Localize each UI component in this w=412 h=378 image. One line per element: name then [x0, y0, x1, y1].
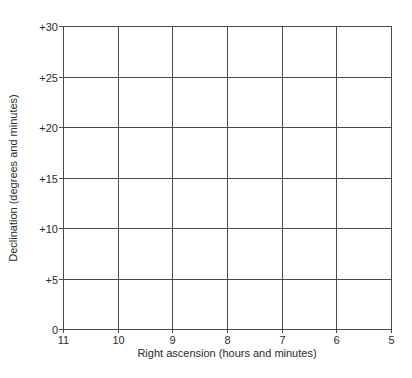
- grid: [59, 26, 392, 333]
- x-tick-label: 5: [388, 334, 394, 346]
- y-tick-label: +5: [45, 274, 58, 286]
- star-chart-grid: 0+5+10+15+20+25+30 111098765 Right ascen…: [0, 0, 412, 378]
- x-tick-label: 11: [58, 334, 69, 346]
- x-tick-label: 7: [279, 334, 285, 346]
- x-tick-label: 6: [333, 334, 339, 346]
- y-axis-title: Declination (degrees and minutes): [7, 94, 19, 262]
- y-tick-label: +20: [39, 122, 58, 134]
- y-tick-label: +30: [39, 21, 58, 33]
- y-axis-ticks: 0+5+10+15+20+25+30: [39, 21, 58, 336]
- x-tick-label: 9: [169, 334, 175, 346]
- y-tick-label: +10: [39, 223, 58, 235]
- x-axis-title: Right ascension (hours and minutes): [137, 347, 316, 359]
- x-axis-ticks: 111098765: [58, 334, 395, 346]
- x-tick-label: 8: [224, 334, 230, 346]
- x-tick-label: 10: [112, 334, 124, 346]
- y-tick-label: +15: [39, 173, 58, 185]
- y-tick-label: +25: [39, 72, 58, 84]
